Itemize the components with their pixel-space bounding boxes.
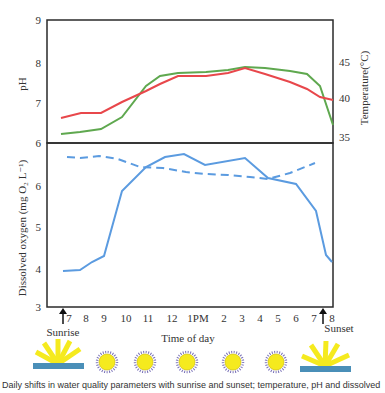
ytick-right: 45 [339,56,351,68]
x-axis-label: Time of day [161,332,215,344]
sun-icon [223,352,243,372]
oxygen-axis-label: Dissolved oxygen (mg O₂ L⁻¹) [16,159,29,296]
ytick: 7 [36,97,42,109]
ytick: 6 [36,137,42,149]
sun-icon [135,352,155,372]
sunrise-annotation: Sunrise [47,308,80,338]
temperature-axis-label: Temperature(°C) [358,50,371,125]
ytick: 5 [36,221,42,233]
sunset-arrowhead-icon [319,308,327,314]
sun-icon [177,352,197,372]
xtick: 11 [143,312,154,324]
ph-axis-label: pH [16,77,28,91]
sun-icon [97,352,117,372]
sun-icon [266,352,286,372]
sunrise-icon [33,339,84,369]
ytick-right: 35 [339,131,351,143]
xtick: 10 [121,312,133,324]
ytick: 9 [36,14,42,26]
xtick: 9 [101,312,107,324]
xtick: 4 [257,312,263,324]
bottom-left-yaxis: 6 5 4 3 Dissolved oxygen (mg O₂ L⁻¹) [16,159,42,313]
xtick: 3 [239,312,245,324]
sunset-icon [300,341,351,372]
bottom-panel-frame [47,143,333,307]
xtick: 7 [66,312,72,324]
ph-line [61,68,333,118]
xtick: 8 [83,312,89,324]
oxygen-dashed-line [67,156,315,179]
sunset-label: Sunset [324,322,353,334]
xtick: 1PM [187,312,209,324]
xtick: 7 [311,312,317,324]
ytick: 4 [36,263,42,275]
ytick: 3 [36,301,42,313]
top-right-yaxis: 45 40 35 Temperature(°C) [339,50,371,143]
chart: 9 8 7 6 pH 45 40 35 Temperature(°C) 6 5 … [0,0,385,393]
temperature-line [61,67,333,134]
xtick: 6 [293,312,299,324]
sunrise-arrowhead-icon [59,308,67,314]
sunset-annotation: Sunset [319,308,354,334]
x-axis: 7 8 9 10 11 12 1PM 2 3 4 5 6 7 8 Time of… [66,312,335,344]
xtick: 2 [221,312,227,324]
figure-caption: Daily shifts in water quality parameters… [2,380,382,390]
xtick: 5 [275,312,281,324]
xtick: 12 [167,312,178,324]
ytick: 8 [36,57,42,69]
ytick: 6 [36,180,42,192]
top-left-yaxis: 9 8 7 6 pH [16,14,42,149]
ytick-right: 40 [339,92,351,104]
sunrise-label: Sunrise [47,326,80,338]
